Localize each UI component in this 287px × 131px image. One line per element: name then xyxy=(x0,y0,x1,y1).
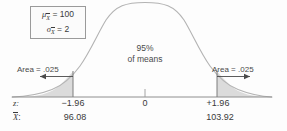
standard-error-parameter: σX = 2 xyxy=(47,23,69,37)
normal-distribution-figure: μX = 100 σX = 2 95% of means Area = .025… xyxy=(0,0,287,131)
xbar-tick-upper: 103.92 xyxy=(206,113,234,122)
xbar-axis-row: X: 96.08 103.92 xyxy=(0,113,287,127)
mean-parameter: μX = 100 xyxy=(42,8,74,22)
right-area-label: Area = .025 xyxy=(212,66,254,74)
z-tick-zero: 0 xyxy=(142,99,147,108)
z-tick-negative: −1.96 xyxy=(62,99,85,108)
sigma-subscript-xbar: X xyxy=(51,28,55,37)
confidence-percent: 95% xyxy=(113,43,177,54)
xbar-colon: : xyxy=(18,112,20,122)
xbar-tick-lower: 96.08 xyxy=(64,113,87,122)
center-area-label: 95% of means xyxy=(113,43,177,66)
z-axis-row: z: −1.96 0 +1.96 xyxy=(0,99,287,113)
xbar-symbol: X xyxy=(13,113,18,122)
confidence-caption: of means xyxy=(113,54,177,65)
standard-error-value: = 2 xyxy=(57,24,69,34)
axis-label-rows: z: −1.96 0 +1.96 X: 96.08 103.92 xyxy=(0,99,287,131)
mean-value: = 100 xyxy=(52,9,74,19)
z-tick-positive: +1.96 xyxy=(207,99,230,108)
left-area-label: Area = .025 xyxy=(17,66,59,74)
z-axis-key: z: xyxy=(13,99,19,108)
xbar-axis-key: X: xyxy=(13,113,21,122)
mu-subscript-xbar: X xyxy=(46,14,50,23)
parameter-box: μX = 100 σX = 2 xyxy=(30,6,86,39)
